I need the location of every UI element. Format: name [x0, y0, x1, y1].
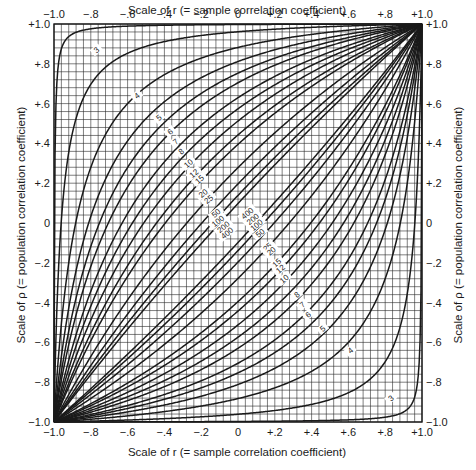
y-tick-label-left: +.2 [34, 177, 50, 189]
x-tick-label-top: +.8 [377, 8, 393, 20]
y-tick-label-right: +1.0 [426, 18, 448, 30]
y-tick-label-left: −.6 [34, 336, 50, 348]
x-tick-label-bottom: −.4 [157, 426, 173, 438]
y-tick-label-left: +.6 [34, 98, 50, 110]
bottom-axis-title: Scale of r (= sample correlation coeffic… [128, 446, 346, 458]
x-tick-label-bottom: +.2 [267, 426, 283, 438]
y-tick-label-right: −.4 [426, 297, 442, 309]
y-tick-label-left: −.2 [34, 257, 50, 269]
y-tick-label-right: −.2 [426, 257, 442, 269]
x-tick-label-bottom: −.6 [120, 426, 136, 438]
left-axis-ticks: +1.0+.8+.6+.4+.20−.2−.4−.6−.8−1.0 [28, 18, 50, 428]
y-tick-label-right: +.6 [426, 98, 442, 110]
x-tick-label-bottom: +.4 [304, 426, 320, 438]
y-tick-label-right: −.6 [426, 336, 442, 348]
x-tick-label-bottom: −.8 [83, 426, 99, 438]
y-tick-label-right: −.8 [426, 376, 442, 388]
y-tick-label-right: +.2 [426, 177, 442, 189]
y-tick-label-left: +1.0 [28, 18, 50, 30]
confidence-belt-chart: 3456781012152025501002004004002001005025… [0, 0, 476, 470]
y-tick-label-right: +.8 [426, 58, 442, 70]
y-tick-label-left: +.4 [34, 137, 50, 149]
bottom-axis-ticks: −1.0−.8−.6−.4−.20+.2+.4+.6+.8+1.0 [43, 426, 433, 438]
y-tick-label-right: +.4 [426, 137, 442, 149]
left-axis-title: Scale of ρ (= population correlation coe… [15, 106, 27, 343]
x-tick-label-bottom: 0 [235, 426, 241, 438]
x-tick-label-bottom: +.8 [377, 426, 393, 438]
right-axis-title: Scale of ρ (= population correlation coe… [452, 106, 464, 343]
y-tick-label-left: +.8 [34, 58, 50, 70]
x-tick-label-bottom: +.6 [341, 426, 357, 438]
y-tick-label-left: −.8 [34, 376, 50, 388]
y-tick-label-left: −1.0 [28, 416, 50, 428]
top-axis-title: Scale of r (= sample correlation coeffic… [128, 4, 346, 16]
x-tick-label-top: −.8 [83, 8, 99, 20]
right-axis-ticks: +1.0+.8+.6+.4+.20−.2−.4−.6−.8−1.0 [426, 18, 448, 428]
y-tick-label-left: 0 [44, 217, 50, 229]
y-tick-label-left: −.4 [34, 297, 50, 309]
x-tick-label-bottom: −.2 [193, 426, 209, 438]
grid-lines [54, 24, 422, 422]
y-tick-label-right: 0 [426, 217, 432, 229]
y-tick-label-right: −1.0 [426, 416, 448, 428]
